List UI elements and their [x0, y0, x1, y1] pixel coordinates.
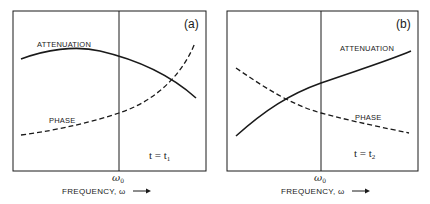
- panel-a-omega0-label: ω0: [112, 172, 124, 184]
- panel-a-phase-label: PHASE: [49, 116, 75, 125]
- panel-a-arrow-icon: [133, 189, 151, 194]
- panel-a-time-label: t = t1: [149, 149, 171, 163]
- panel-b-xlabel: FREQUENCY, ω: [281, 187, 345, 196]
- panel-b-phase-curve: [236, 68, 409, 133]
- panel-b-time-label: t = t2: [354, 147, 376, 161]
- panel-b-attenuation-curve: [236, 51, 411, 136]
- panel-a-xlabel: FREQUENCY, ω: [62, 187, 126, 196]
- panel-b-phase-label: PHASE: [355, 113, 381, 122]
- panel-b-arrow-icon: [352, 189, 370, 194]
- panel-b-tag: (b): [396, 17, 411, 31]
- panel-a: ATTENUATION PHASE (a) t = t1 ω0 FREQUENC…: [13, 11, 206, 196]
- panel-a-attenuation-label: ATTENUATION: [37, 40, 91, 49]
- panel-a-frame: [13, 11, 206, 171]
- panel-a-phase-curve: [21, 43, 195, 135]
- panel-b-attenuation-label: ATTENUATION: [340, 44, 394, 53]
- panel-b-frame: [227, 11, 418, 171]
- diagram-canvas: ATTENUATION PHASE (a) t = t1 ω0 FREQUENC…: [0, 0, 430, 204]
- panel-b-omega0-label: ω0: [314, 172, 326, 184]
- panel-a-tag: (a): [184, 17, 199, 31]
- panel-b: ATTENUATION PHASE (b) t = t2 ω0 FREQUENC…: [227, 11, 418, 196]
- panel-a-attenuation-curve: [21, 48, 196, 98]
